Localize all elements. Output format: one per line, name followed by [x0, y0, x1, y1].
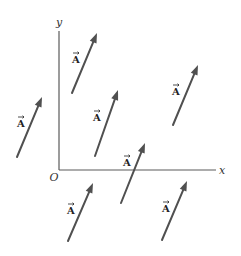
x-axis-label: x — [219, 164, 226, 177]
vector-a: A — [16, 97, 42, 157]
vector-shaft — [95, 98, 115, 156]
origin-label: O — [49, 171, 58, 184]
vector-label: A — [66, 205, 75, 216]
vector-shaft — [162, 188, 184, 240]
arrowhead-icon — [191, 65, 198, 76]
vector-label: A — [171, 86, 180, 97]
vector-a: A — [161, 181, 187, 240]
vector-label: A — [161, 203, 170, 214]
vector-a: A — [121, 143, 145, 203]
vector-shaft — [72, 40, 94, 93]
arrowhead-icon — [90, 33, 97, 44]
y-axis-label: y — [55, 16, 63, 29]
arrowhead-icon — [111, 90, 118, 101]
vector-shaft — [17, 104, 39, 157]
vector-label: A — [122, 157, 131, 168]
arrowhead-icon — [35, 97, 42, 108]
vector-label: A — [16, 118, 25, 129]
arrowhead-icon — [180, 181, 187, 192]
arrowhead-icon — [138, 143, 145, 154]
vector-a: A — [66, 183, 93, 241]
arrowhead-icon — [86, 183, 93, 194]
vector-a: A — [171, 65, 198, 125]
vector-a: A — [92, 90, 118, 156]
vector-a: A — [71, 33, 97, 93]
vector-shaft — [173, 72, 195, 125]
vector-diagram: y x O AAAAAAA — [0, 0, 241, 256]
vector-label: A — [71, 54, 80, 65]
vector-label: A — [92, 112, 101, 123]
vector-group: AAAAAAA — [16, 33, 198, 241]
